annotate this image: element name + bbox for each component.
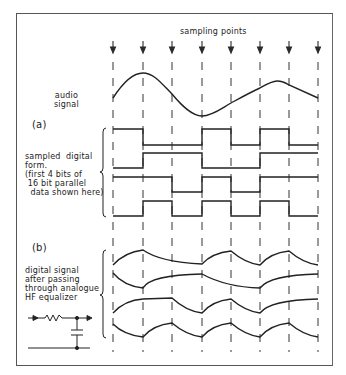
sampling-points-title: sampling points bbox=[180, 27, 247, 36]
equalized-wave-2 bbox=[113, 273, 318, 288]
rc-equalizer-circuit-icon bbox=[28, 315, 92, 350]
equalized-signal-label: digital signal after passing through ana… bbox=[25, 266, 99, 302]
sampled-digital-label: sampled digital form. (first 4 bits of 1… bbox=[25, 152, 104, 197]
brace-b bbox=[100, 250, 106, 338]
arrow-down-icon bbox=[141, 47, 146, 53]
digital-waveforms bbox=[113, 129, 318, 216]
arrow-down-icon bbox=[258, 47, 263, 53]
equalized-waveforms bbox=[113, 250, 318, 337]
arrow-down-icon bbox=[316, 47, 321, 53]
arrow-down-icon bbox=[111, 47, 116, 53]
audio-signal-curve bbox=[113, 73, 318, 116]
digital-bit-waveform-4 bbox=[113, 201, 318, 216]
equalized-wave-1 bbox=[113, 250, 318, 265]
digital-bit-waveform-3 bbox=[113, 177, 318, 192]
digital-bit-waveform-1 bbox=[113, 129, 318, 145]
arrow-down-icon bbox=[287, 47, 292, 53]
audio-signal-label: audio signal bbox=[54, 91, 79, 109]
equalized-wave-3 bbox=[113, 298, 318, 313]
panel-b-label: (b) bbox=[32, 243, 47, 252]
arrow-down-icon bbox=[170, 47, 175, 53]
digital-bit-waveform-2 bbox=[113, 153, 318, 168]
equalized-wave-4 bbox=[113, 323, 318, 337]
sampling-dashed-lines bbox=[113, 62, 318, 352]
arrow-down-icon bbox=[200, 47, 205, 53]
sampling-arrows bbox=[111, 41, 321, 53]
panel-a-label: (a) bbox=[32, 120, 47, 129]
arrow-down-icon bbox=[229, 47, 234, 53]
